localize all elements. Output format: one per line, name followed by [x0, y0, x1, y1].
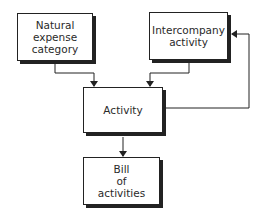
node-label-line: activity [152, 36, 225, 48]
edge-natural-to-activity [55, 64, 94, 86]
node-label-line: Intercompany [152, 24, 225, 36]
node-label-line: of [98, 175, 145, 187]
node-label-line: Activity [103, 104, 142, 116]
node-intercompany-activity: Intercompany activity [149, 12, 228, 60]
node-label-line: activities [98, 187, 145, 199]
edge-intercompany-to-activity [150, 63, 189, 86]
node-activity: Activity [83, 87, 163, 133]
node-label-line: category [32, 43, 78, 55]
node-label-line: Natural [32, 19, 78, 31]
node-bill-of-activities: Bill of activities [83, 157, 160, 205]
node-natural-expense-category: Natural expense category [17, 13, 93, 61]
node-label-line: Bill [98, 163, 145, 175]
node-label-line: expense [32, 31, 78, 43]
